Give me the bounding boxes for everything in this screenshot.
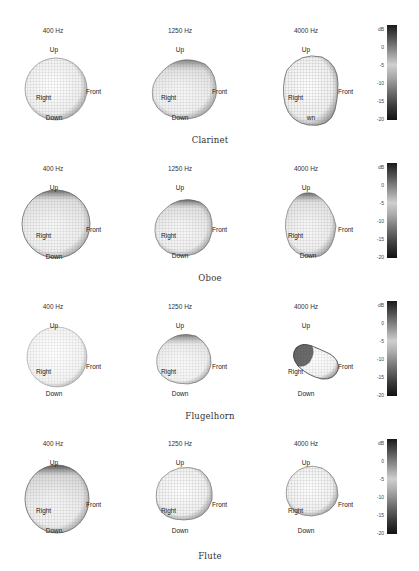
label-down: Down bbox=[172, 252, 189, 259]
label-right: Right bbox=[36, 368, 51, 375]
freq-label: 400 Hz bbox=[43, 165, 64, 172]
label-right: Right bbox=[288, 94, 303, 101]
colorbar-tick: 0 bbox=[370, 44, 384, 50]
colorbar-tick: -5 bbox=[370, 338, 384, 344]
colorbar-tick: -5 bbox=[370, 200, 384, 206]
label-up: Up bbox=[50, 459, 58, 466]
label-down: Down bbox=[298, 527, 315, 534]
colorbar-tick: -15 bbox=[370, 374, 384, 380]
label-down: wn bbox=[307, 114, 315, 121]
directivity-balloon-shape bbox=[0, 0, 419, 140]
colorbar-tick: -15 bbox=[370, 98, 384, 104]
label-up: Up bbox=[302, 459, 310, 466]
freq-label: 4000 Hz bbox=[294, 303, 318, 310]
row-flute: 400 Hz Up Right Front Down 1250 Hz Up Ri… bbox=[0, 414, 419, 554]
colorbar bbox=[387, 439, 397, 534]
label-front: Front bbox=[338, 501, 353, 508]
label-down: Down bbox=[46, 114, 63, 121]
label-right: Right bbox=[161, 94, 176, 101]
directivity-balloon-shape bbox=[0, 138, 419, 278]
label-front: Front bbox=[212, 501, 227, 508]
label-front: Front bbox=[86, 88, 101, 95]
label-down: Down bbox=[46, 527, 63, 534]
freq-label: 1250 Hz bbox=[168, 303, 192, 310]
colorbar-unit: dB bbox=[370, 302, 384, 308]
label-front: Front bbox=[212, 363, 227, 370]
colorbar-tick: -15 bbox=[370, 236, 384, 242]
directivity-balloon-shape bbox=[0, 276, 419, 416]
freq-label: 400 Hz bbox=[43, 303, 64, 310]
label-down: Down bbox=[298, 390, 315, 397]
label-front: Front bbox=[212, 88, 227, 95]
label-down: Down bbox=[172, 390, 189, 397]
label-up: Up bbox=[50, 184, 58, 191]
colorbar-tick: 0 bbox=[370, 182, 384, 188]
row-oboe: 400 Hz Up Right Front Down 1250 Hz Up Ri… bbox=[0, 138, 419, 278]
colorbar-tick: -20 bbox=[370, 530, 384, 536]
colorbar-tick: -20 bbox=[370, 392, 384, 398]
directivity-balloon-shape bbox=[0, 414, 419, 554]
freq-label: 1250 Hz bbox=[168, 165, 192, 172]
freq-label: 1250 Hz bbox=[168, 27, 192, 34]
colorbar-tick: -10 bbox=[370, 80, 384, 86]
label-front: Front bbox=[338, 363, 353, 370]
label-front: Front bbox=[86, 226, 101, 233]
colorbar-tick: -10 bbox=[370, 218, 384, 224]
colorbar bbox=[387, 25, 397, 120]
row-clarinet: 400 Hz bbox=[0, 0, 419, 140]
label-down: Down bbox=[46, 253, 63, 260]
colorbar-tick: 0 bbox=[370, 320, 384, 326]
colorbar bbox=[387, 163, 397, 258]
freq-label: 400 Hz bbox=[43, 440, 64, 447]
label-up: Up bbox=[176, 322, 184, 329]
colorbar bbox=[387, 301, 397, 396]
label-front: Front bbox=[212, 226, 227, 233]
label-front: Front bbox=[338, 226, 353, 233]
label-right: Right bbox=[288, 507, 303, 514]
label-front: Front bbox=[86, 363, 101, 370]
label-right: Right bbox=[161, 232, 176, 239]
row-flugelhorn: 400 Hz Up Right Front Down 1250 Hz Up Ri… bbox=[0, 276, 419, 416]
freq-label: 4000 Hz bbox=[294, 440, 318, 447]
label-front: Front bbox=[86, 501, 101, 508]
label-up: Up bbox=[302, 322, 310, 329]
colorbar-unit: dB bbox=[370, 440, 384, 446]
label-up: Up bbox=[302, 46, 310, 53]
label-up: Up bbox=[50, 46, 58, 53]
colorbar-tick: -15 bbox=[370, 512, 384, 518]
colorbar-tick: -20 bbox=[370, 254, 384, 260]
label-down: Down bbox=[300, 252, 317, 259]
label-up: Up bbox=[176, 459, 184, 466]
label-right: Right bbox=[288, 368, 303, 375]
freq-label: 4000 Hz bbox=[294, 27, 318, 34]
colorbar-tick: -10 bbox=[370, 356, 384, 362]
label-right: Right bbox=[288, 232, 303, 239]
freq-label: 1250 Hz bbox=[168, 440, 192, 447]
colorbar-unit: dB bbox=[370, 26, 384, 32]
label-down: Down bbox=[172, 114, 189, 121]
label-front: Front bbox=[338, 88, 353, 95]
colorbar-unit: dB bbox=[370, 164, 384, 170]
label-down: Down bbox=[46, 390, 63, 397]
colorbar-tick: -10 bbox=[370, 494, 384, 500]
label-right: Right bbox=[161, 507, 176, 514]
colorbar-tick: -20 bbox=[370, 116, 384, 122]
directivity-figure: 400 Hz bbox=[0, 0, 419, 571]
label-right: Right bbox=[36, 507, 51, 514]
label-up: Up bbox=[176, 184, 184, 191]
label-right: Right bbox=[36, 94, 51, 101]
label-right: Right bbox=[36, 232, 51, 239]
label-down: Down bbox=[172, 527, 189, 534]
instrument-caption: Flute bbox=[198, 551, 222, 561]
colorbar-tick: 0 bbox=[370, 458, 384, 464]
label-up: Up bbox=[302, 184, 310, 191]
colorbar-tick: -5 bbox=[370, 476, 384, 482]
label-up: Up bbox=[176, 46, 184, 53]
colorbar-tick: -5 bbox=[370, 62, 384, 68]
label-up: Up bbox=[50, 322, 58, 329]
label-right: Right bbox=[161, 368, 176, 375]
freq-label: 4000 Hz bbox=[294, 165, 318, 172]
